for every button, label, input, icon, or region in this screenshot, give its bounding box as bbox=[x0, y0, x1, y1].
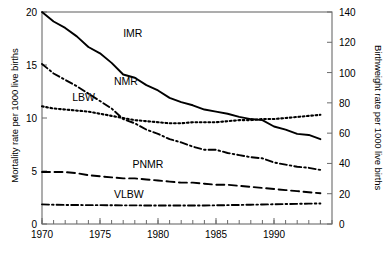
series-line-vlbw bbox=[42, 203, 320, 205]
series-group bbox=[42, 12, 320, 206]
series-annotation-lbw: LBW bbox=[72, 91, 95, 103]
y-axis-right-title: Birthweight rate per 1000 live births bbox=[373, 28, 384, 208]
series-line-pnmr bbox=[42, 172, 320, 193]
series-line-imr bbox=[42, 12, 320, 139]
x-tick-label: 1990 bbox=[263, 229, 286, 240]
chart-canvas: 1970197519801985199005101520020406080100… bbox=[0, 0, 389, 264]
y-tick-left-label: 10 bbox=[26, 113, 38, 124]
y-tick-left-label: 5 bbox=[31, 166, 37, 177]
y-tick-left-label: 15 bbox=[26, 60, 38, 71]
y-tick-right-label: 120 bbox=[339, 37, 356, 48]
series-annotation-nmr: NMR bbox=[114, 75, 138, 87]
series-line-lbw bbox=[42, 106, 320, 123]
y-tick-right-label: 100 bbox=[339, 68, 356, 79]
y-tick-left-label: 20 bbox=[26, 7, 38, 18]
y-tick-right-label: 140 bbox=[339, 7, 356, 18]
y-tick-right-label: 60 bbox=[339, 128, 351, 139]
y-tick-right-label: 0 bbox=[339, 219, 345, 230]
y-tick-right-label: 80 bbox=[339, 98, 351, 109]
y-axis-left-title: Mortality rate per 1000 live births bbox=[9, 31, 20, 201]
y-tick-right-label: 20 bbox=[339, 189, 351, 200]
x-tick-label: 1980 bbox=[147, 229, 170, 240]
series-annotation-imr: IMR bbox=[123, 27, 143, 39]
series-annotation-vlbw: VLBW bbox=[114, 188, 144, 200]
x-tick-label: 1975 bbox=[89, 229, 112, 240]
y-tick-right-label: 40 bbox=[339, 158, 351, 169]
y-tick-left-label: 0 bbox=[31, 219, 37, 230]
x-tick-label: 1970 bbox=[31, 229, 54, 240]
series-annotation-pnmr: PNMR bbox=[132, 158, 163, 170]
x-tick-label: 1985 bbox=[205, 229, 228, 240]
series-line-nmr bbox=[42, 64, 320, 170]
chart-figure: 1970197519801985199005101520020406080100… bbox=[0, 0, 389, 264]
